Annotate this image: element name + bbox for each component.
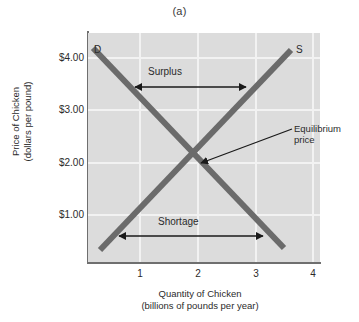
x-axis-title-line1: Quantity of Chicken	[159, 288, 242, 299]
supply-curve-label: S	[296, 44, 303, 55]
shortage-label: Shortage	[158, 216, 199, 227]
y-tick-label: $2.00	[40, 157, 84, 168]
y-tick-label: $3.00	[40, 104, 84, 115]
x-tick-label: 4	[300, 268, 326, 279]
y-tick-label: $1.00	[40, 209, 84, 220]
surplus-label: Surplus	[148, 66, 182, 77]
y-axis-title: Price of Chicken (dollars per pound)	[10, 57, 33, 187]
y-axis-title-line1: Price of Chicken	[10, 87, 21, 156]
x-tick-label: 2	[185, 268, 211, 279]
x-axis-title-line2: (billions of pounds per year)	[141, 300, 258, 311]
equilibrium-price-label: Equilibrium price	[294, 123, 356, 145]
equilibrium-label-line2: price	[294, 134, 315, 145]
demand-curve-label: D	[94, 44, 101, 55]
y-axis-title-line2: (dollars per pound)	[21, 82, 32, 162]
plot-area	[88, 33, 320, 262]
plot-graphics	[88, 33, 320, 262]
x-axis-line	[87, 262, 321, 264]
x-tick-label: 3	[243, 268, 269, 279]
y-tick-label: $4.00	[40, 52, 84, 63]
x-axis-title: Quantity of Chicken (billions of pounds …	[60, 288, 340, 311]
equilibrium-label-line1: Equilibrium	[294, 123, 341, 134]
x-tick-label: 1	[127, 268, 153, 279]
x-axis-tick-labels: 1 2 3 4	[0, 268, 359, 284]
